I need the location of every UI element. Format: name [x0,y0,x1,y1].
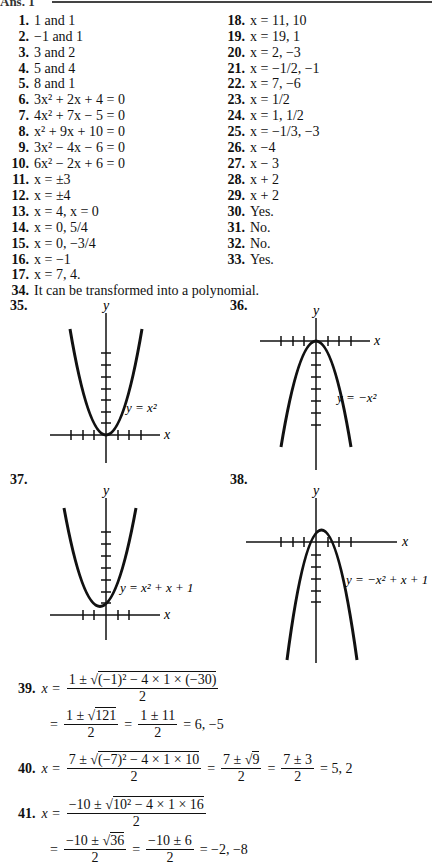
equation-label: y = x² [124,400,158,415]
equation-label: y = −x² [335,390,378,405]
answer-item: 18.x = 11, 10 [223,13,306,28]
graph-label: 35. [10,298,28,314]
problem-40: 40. x = 7 ± √(−7)² − 4 × 1 × 102 = 7 ± √… [18,752,352,785]
graph-label: 37. [10,472,28,488]
answer-item: 28.x + 2 [223,172,279,187]
svg-text:x: x [163,607,171,622]
equation-label: y = −x² + x + 1 [344,572,428,587]
answer-item: 31.No. [223,220,271,235]
svg-text:y: y [101,298,110,313]
graph-y-equals-neg-x-squared: y x y = −x² [250,300,440,470]
graph-neg-x-squared-plus-x-plus-1: y x y = −x² + x + 1 [240,480,441,670]
answer-item: 30.Yes. [223,204,274,219]
answer-item: 14.x = 0, 5/4 [6,220,88,235]
answer-item: 17.x = 7, 4. [6,267,80,282]
svg-text:y: y [311,303,320,318]
graph-x-squared-plus-x-plus-1: y x y = x² + x + 1 [40,480,240,650]
svg-text:y: y [311,483,320,498]
answer-item: 8.x² + 9x + 10 = 0 [6,124,125,139]
equation-label: y = x² + x + 1 [118,580,194,595]
answer-item: 7.4x² + 7x − 5 = 0 [6,108,125,123]
answer-item: 25.x = −1/3, −3 [223,124,320,139]
cropped-heading: Ans. 1 [0,0,35,10]
problem-41-continued: = −10 ± √362 = −10 ± 62 = −2, −8 [50,833,248,865]
answer-item: 5.8 and 1 [6,76,75,91]
answer-item: 19.x = 19, 1 [223,29,300,44]
svg-text:y: y [101,483,110,498]
answer-item: 4.5 and 4 [6,61,75,76]
answer-item: 29.x + 2 [223,188,279,203]
answer-item: 11.x = ±3 [6,172,71,187]
page-top-edge: Ans. 1 [0,0,441,5]
answer-item: 32.No. [223,236,271,251]
answer-item: 1.1 and 1 [6,13,75,28]
answer-item: 15.x = 0, −3/4 [6,236,96,251]
answer-item: 12.x = ±4 [6,188,71,203]
answer-item: 21.x = −1/2, −1 [223,61,320,76]
svg-text:x: x [163,427,171,442]
answer-item: 23.x = 1/2 [223,92,290,107]
answer-item: 9.3x² − 4x − 6 = 0 [6,140,125,155]
problem-41: 41. x = −10 ± √10² − 4 × 1 × 162 [18,797,206,830]
svg-text:x: x [373,333,381,348]
answer-item: 27.x − 3 [223,156,279,171]
answer-item: 3.3 and 2 [6,45,75,60]
answer-item: 6.3x² + 2x + 4 = 0 [6,92,125,107]
answer-item: 26.x −4 [223,140,275,155]
answer-item: 33.Yes. [223,252,274,267]
answer-item: 24.x = 1, 1/2 [223,108,304,123]
top-rule [52,1,432,3]
answer-item: 22.x = 7, −6 [223,76,301,91]
answer-item: 2.−1 and 1 [6,29,83,44]
problem-39-continued: = 1 ± √1212 = 1 ± 112 = 6, −5 [50,708,224,741]
graph-label: 36. [230,298,248,314]
problem-39: 39. x = 1 ± √(−1)² − 4 × 1 × (−30) 2 [18,672,218,705]
answer-item: 16.x = −1 [6,252,71,267]
answer-item: 20.x = 2, −3 [223,45,301,60]
fraction: 1 ± √(−1)² − 4 × 1 × (−30) 2 [67,672,219,705]
svg-text:x: x [401,534,409,549]
graph-y-equals-x-squared: y x y = x² [40,295,180,465]
answer-item: 13.x = 4, x = 0 [6,204,99,219]
answer-item: 10.6x² − 2x + 6 = 0 [6,156,125,171]
